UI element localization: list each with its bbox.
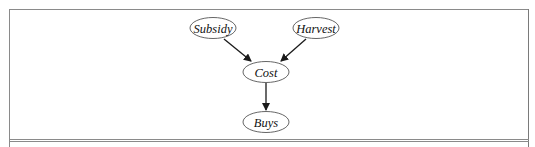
node-buys: Buys xyxy=(243,112,289,133)
edge-subsidy-cost xyxy=(224,39,251,61)
node-label: Subsidy xyxy=(194,22,233,36)
node-label: Cost xyxy=(255,66,278,80)
edge-harvest-cost xyxy=(281,39,306,61)
node-cost: Cost xyxy=(243,62,289,83)
node-harvest: Harvest xyxy=(293,18,339,39)
node-subsidy: Subsidy xyxy=(190,18,236,39)
node-label: Harvest xyxy=(295,22,336,36)
diagram-canvas: Subsidy Harvest Cost Buys xyxy=(0,0,535,147)
node-label: Buys xyxy=(254,116,278,130)
